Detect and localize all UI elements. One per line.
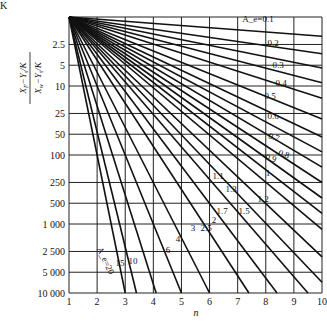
nomogram-chart: K XF−Ys/K Xw−Ys/K 2.551025501002505001 0…: [0, 0, 327, 321]
series-label: 1.1: [212, 171, 223, 181]
series-label: 0.2: [267, 38, 278, 48]
series-label: 1.7: [216, 206, 228, 216]
y-tick-label: 2.5: [53, 39, 66, 50]
series-label: 0.4: [275, 78, 287, 88]
x-tick-label: 6: [207, 296, 212, 307]
x-tick-label: 5: [179, 296, 184, 307]
y-tick-label: 5: [60, 60, 65, 71]
series-label: 0.5: [264, 91, 276, 101]
x-tick-label: 3: [123, 296, 128, 307]
y-tick-label: 10: [55, 81, 65, 92]
series-label: 0.8: [277, 148, 291, 161]
y-axis-label: XF−Ys/K Xw−Ys/K: [18, 52, 44, 104]
x-tick-label: 4: [151, 296, 156, 307]
series-label: 0.6: [267, 111, 279, 121]
x-tick-label: 7: [235, 296, 240, 307]
x-tick-label: 2: [95, 296, 100, 307]
y-tick-label: 50: [55, 129, 65, 140]
y-tick-label: 5 000: [43, 267, 66, 278]
svg-text:XF−Ys/K: XF−Ys/K: [18, 61, 29, 94]
series-label: 6: [166, 245, 171, 255]
x-tick-label: 9: [291, 296, 296, 307]
y-tick-label: 10 000: [38, 288, 66, 299]
series-label: 4: [176, 234, 181, 244]
series-label: 1.2: [257, 194, 268, 204]
series-label: 0.3: [272, 60, 284, 70]
x-tick-label: 1: [67, 296, 72, 307]
x-axis-label: n: [194, 307, 199, 318]
y-tick-label: 2 500: [43, 246, 66, 257]
x-axis-ticks: 12345678910: [67, 296, 327, 307]
series-label: 1: [266, 168, 271, 178]
svg-text:Xw−Ys/K: Xw−Ys/K: [33, 61, 44, 94]
series-label: 2.5: [200, 223, 212, 233]
y-tick-label: 1 000: [43, 219, 66, 230]
series-label: 15: [116, 258, 126, 268]
x-tick-label: 8: [263, 296, 268, 307]
x-tick-label: 10: [317, 296, 327, 307]
corner-label: K: [0, 0, 8, 11]
series-label: 3: [191, 223, 196, 233]
y-tick-label: 100: [50, 150, 65, 161]
series-label: 2: [212, 215, 217, 225]
series-label: 1.5: [238, 206, 250, 216]
y-tick-label: 25: [55, 108, 65, 119]
y-tick-label: 500: [50, 198, 65, 209]
series-label: 1.3: [225, 184, 237, 194]
series-label: 10: [129, 256, 139, 266]
y-tick-label: 250: [50, 177, 65, 188]
series-label: A_e=0.1: [242, 14, 273, 24]
